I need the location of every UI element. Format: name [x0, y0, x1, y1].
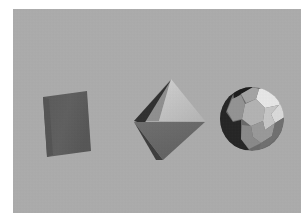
truncated-icosahedron-object — [13, 9, 301, 213]
screenshot-root — [0, 0, 306, 221]
render-viewport — [13, 9, 301, 213]
